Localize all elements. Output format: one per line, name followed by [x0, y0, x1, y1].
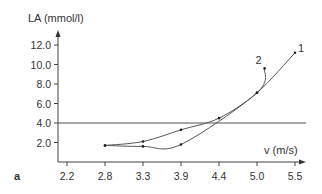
- x-axis-arrow-icon: [299, 160, 306, 165]
- x-tick-label: 5.0: [250, 170, 265, 182]
- series-2-point: [142, 145, 145, 148]
- series-2-point: [256, 91, 259, 94]
- y-tick-label: 10.0: [31, 59, 52, 71]
- series-label: 1: [298, 42, 304, 54]
- y-tick-label: 8.0: [36, 78, 51, 90]
- x-tick-label: 3.9: [174, 170, 189, 182]
- y-tick-label: 6.0: [36, 98, 51, 110]
- panel-label: a: [14, 170, 21, 182]
- series-1-point: [180, 129, 183, 132]
- series-label: 2: [256, 54, 262, 66]
- series-2-point: [104, 144, 107, 147]
- x-ticks: 2.22.83.33.94.45.05.5: [60, 162, 303, 182]
- x-tick-label: 3.3: [136, 170, 151, 182]
- series-labels: 12: [256, 42, 305, 67]
- lactate-velocity-chart: LA (mmol/l) v (m/s) a 2.04.06.08.010.012…: [0, 0, 322, 194]
- series-1-point: [294, 52, 297, 55]
- y-axis-arrow-icon: [56, 30, 61, 37]
- x-axis-title: v (m/s): [264, 144, 298, 156]
- y-tick-label: 12.0: [31, 39, 52, 51]
- x-tick-label: 2.8: [98, 170, 113, 182]
- x-tick-label: 2.2: [60, 170, 75, 182]
- series-1-point: [218, 117, 221, 120]
- series-2-point: [180, 143, 183, 146]
- y-tick-label: 2.0: [36, 137, 51, 149]
- y-tick-label: 4.0: [36, 117, 51, 129]
- y-axis-title: LA (mmol/l): [28, 12, 84, 24]
- series-1-point: [142, 140, 145, 143]
- x-tick-label: 4.4: [212, 170, 227, 182]
- y-ticks: 2.04.06.08.010.012.0: [31, 39, 58, 149]
- series-1-line: [105, 53, 295, 146]
- x-tick-label: 5.5: [288, 170, 303, 182]
- series-curves: [105, 53, 295, 149]
- series-2-line: [105, 68, 266, 149]
- series-2-point: [263, 67, 266, 70]
